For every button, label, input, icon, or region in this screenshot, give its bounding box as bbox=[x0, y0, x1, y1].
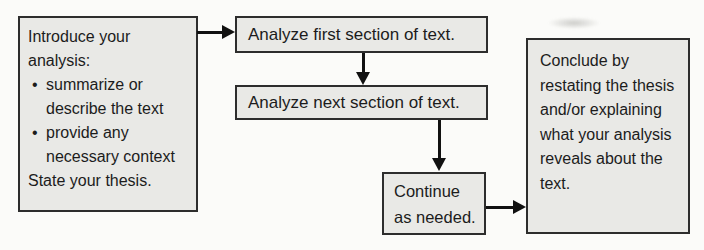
node-label: Conclude by restating the thesis and/or … bbox=[540, 52, 674, 192]
bullet-marker-icon: • bbox=[28, 73, 46, 121]
intro-heading: Introduce your analysis: bbox=[28, 25, 190, 73]
arrow-shaft bbox=[197, 31, 224, 34]
bullet-text: summarize or describe the text bbox=[46, 73, 190, 121]
node-label: Continue as needed. bbox=[394, 178, 478, 230]
bullet-item: • provide any necessary context bbox=[28, 121, 190, 169]
node-analyze-next: Analyze next section of text. bbox=[235, 85, 488, 120]
node-continue: Continue as needed. bbox=[382, 172, 486, 235]
node-label: Analyze next section of text. bbox=[248, 93, 460, 113]
node-label: Analyze first section of text. bbox=[248, 25, 455, 45]
arrow-shaft bbox=[362, 53, 365, 74]
arrowhead-down-icon bbox=[432, 158, 446, 171]
arrow-shaft bbox=[486, 206, 513, 209]
intro-bullet-list: • summarize or describe the text • provi… bbox=[28, 73, 190, 169]
arrowhead-right-icon bbox=[222, 25, 235, 39]
scan-smudge bbox=[548, 17, 600, 29]
node-introduce: Introduce your analysis: • summarize or … bbox=[18, 16, 198, 212]
bullet-item: • summarize or describe the text bbox=[28, 73, 190, 121]
node-conclude: Conclude by restating the thesis and/or … bbox=[526, 38, 690, 234]
intro-footer: State your thesis. bbox=[28, 169, 190, 193]
arrow-shaft bbox=[438, 120, 441, 160]
bullet-marker-icon: • bbox=[28, 121, 46, 169]
bullet-text: provide any necessary context bbox=[46, 121, 190, 169]
arrowhead-right-icon bbox=[513, 200, 526, 214]
arrowhead-down-icon bbox=[356, 72, 370, 85]
flowchart-canvas: Introduce your analysis: • summarize or … bbox=[0, 0, 704, 250]
node-analyze-first: Analyze first section of text. bbox=[235, 16, 488, 53]
